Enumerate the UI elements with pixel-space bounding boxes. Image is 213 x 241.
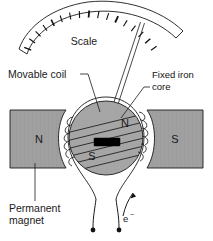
fixed-iron-core-label-line2: core	[152, 81, 170, 92]
scale-label: Scale	[71, 35, 97, 47]
permanent-magnet-right-pole: S	[147, 110, 203, 168]
permanent-magnet-left-pole: N	[10, 110, 66, 168]
movable-coil-label: Movable coil	[8, 68, 66, 80]
scale-arc-group: Scale	[19, 1, 183, 54]
core-south-label: S	[88, 150, 95, 162]
left-pole-label: N	[35, 133, 43, 145]
terminal-dot-right	[117, 228, 122, 233]
lead-wires-group: e −	[91, 193, 137, 232]
terminal-dot-left	[91, 228, 96, 233]
electron-superscript: −	[130, 211, 134, 218]
diagram-canvas: Scale N S N S	[0, 0, 213, 241]
right-pole-label: S	[171, 133, 178, 145]
permanent-magnet-label-line2: magnet	[9, 214, 44, 226]
lead-wire-right	[116, 199, 119, 228]
permanent-magnet-label-line1: Permanent	[9, 202, 60, 214]
fixed-iron-core-label-line1: Fixed iron	[152, 69, 194, 80]
permanent-magnet-callout: Permanent magnet	[9, 163, 60, 226]
movable-coil-callout: Movable coil	[8, 68, 100, 112]
galvanometer-diagram-figure: Scale N S N S	[0, 0, 213, 241]
lead-wire-left	[93, 199, 96, 228]
pointer-hub-block	[94, 138, 120, 146]
electron-label: e	[123, 213, 128, 224]
scale-arc-band	[19, 1, 183, 54]
